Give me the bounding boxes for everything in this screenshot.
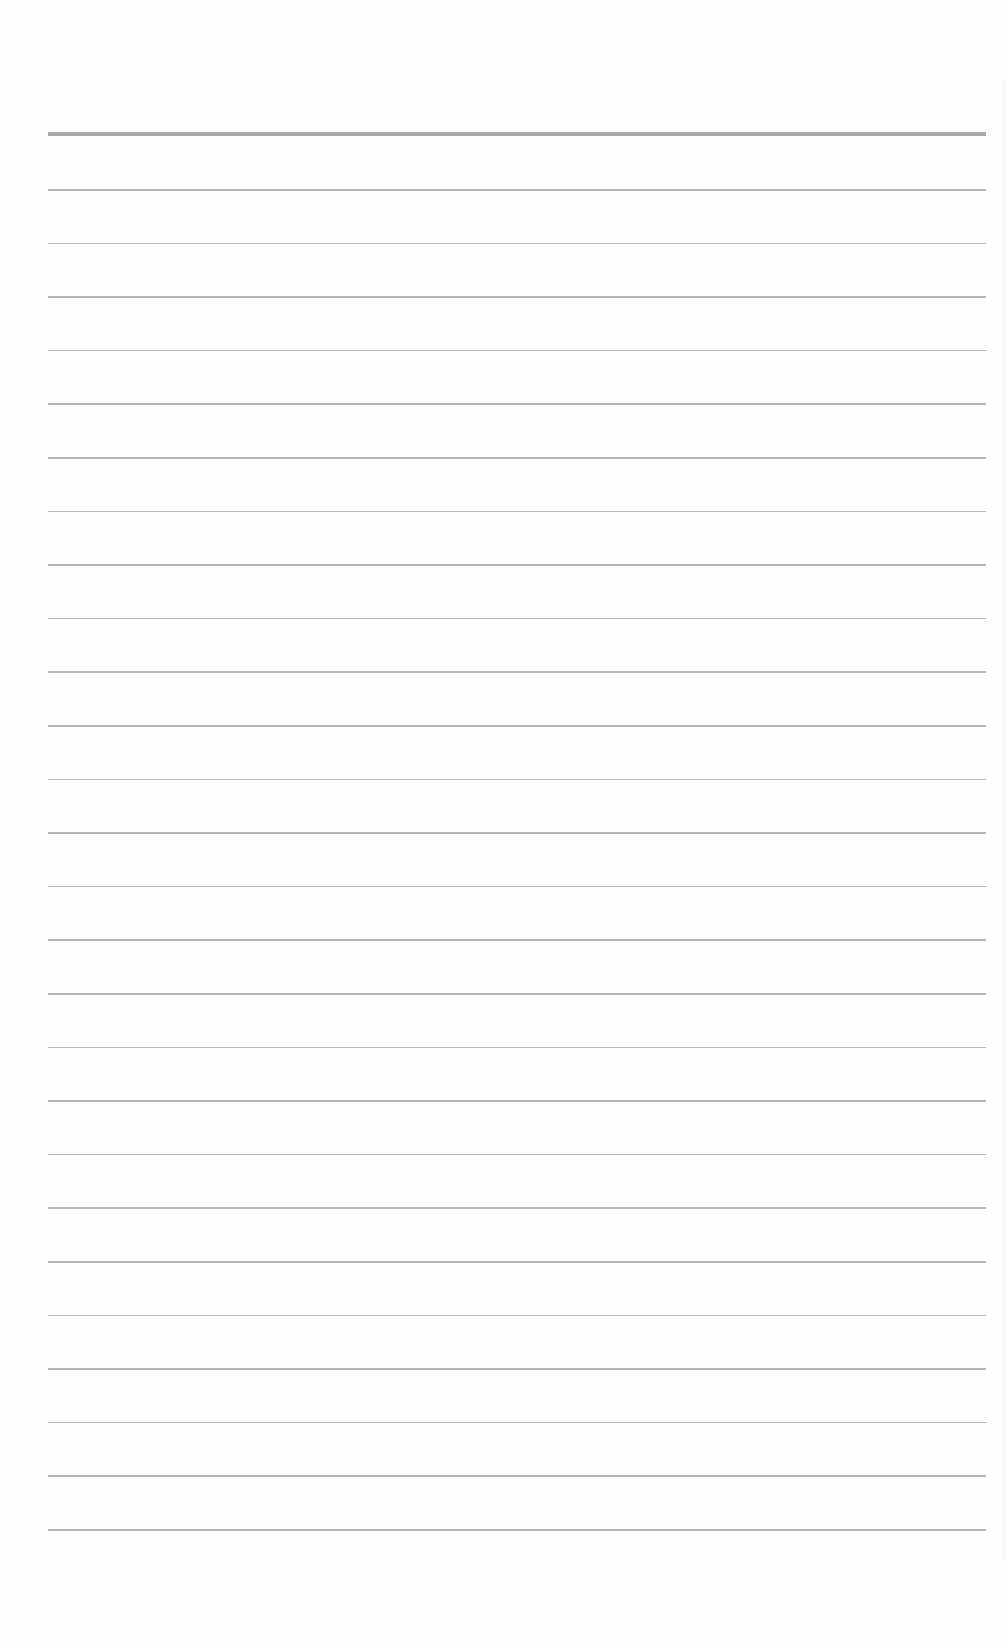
ruled-line bbox=[48, 511, 986, 513]
ruled-line bbox=[48, 1529, 986, 1531]
ruled-line bbox=[48, 779, 986, 781]
lined-paper-page bbox=[0, 0, 1005, 1646]
ruled-line bbox=[48, 189, 986, 191]
ruled-line bbox=[48, 350, 986, 352]
ruled-line bbox=[48, 939, 986, 941]
ruled-line bbox=[48, 993, 986, 995]
ruled-line bbox=[48, 243, 986, 245]
ruled-line bbox=[48, 886, 986, 888]
ruled-line bbox=[48, 564, 986, 566]
ruled-line bbox=[48, 671, 986, 673]
ruled-line bbox=[48, 1261, 986, 1263]
ruled-line bbox=[48, 1047, 986, 1049]
ruled-line bbox=[48, 1100, 986, 1102]
ruled-line bbox=[48, 457, 986, 459]
header-rule bbox=[48, 132, 986, 136]
ruled-line bbox=[48, 1207, 986, 1209]
ruled-line bbox=[48, 1315, 986, 1317]
ruled-line bbox=[48, 618, 986, 620]
ruled-line bbox=[48, 1422, 986, 1424]
ruled-line bbox=[48, 1475, 986, 1477]
ruled-line bbox=[48, 403, 986, 405]
ruled-line bbox=[48, 296, 986, 298]
ruled-line bbox=[48, 1368, 986, 1370]
ruled-line bbox=[48, 1154, 986, 1156]
ruled-line bbox=[48, 832, 986, 834]
ruled-line bbox=[48, 725, 986, 727]
